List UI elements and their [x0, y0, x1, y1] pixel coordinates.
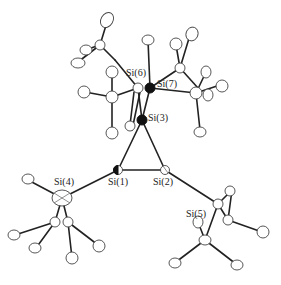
carbon-ellipsoids	[8, 10, 269, 270]
atom-label-si6: Si(6)	[126, 68, 146, 78]
ortep-diagram: Si(1) Si(2) Si(3) Si(4) Si(5) Si(6) Si(7…	[0, 0, 281, 285]
atom-label-si7: Si(7)	[157, 79, 177, 89]
molecule-drawing	[0, 0, 281, 285]
atom-label-si1: Si(1)	[108, 177, 128, 187]
bonds	[15, 22, 262, 264]
atom-label-si4: Si(4)	[54, 177, 74, 187]
atom-label-si5: Si(5)	[186, 209, 206, 219]
atom-label-si3: Si(3)	[148, 113, 168, 123]
atom-label-si2: Si(2)	[153, 177, 173, 187]
